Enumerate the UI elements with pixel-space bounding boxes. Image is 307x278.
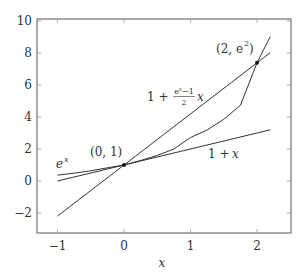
svg-text:e: e bbox=[56, 157, 63, 171]
x-tick-label: 2 bbox=[253, 239, 261, 253]
point-2-e2 bbox=[255, 61, 259, 65]
y-tick-label: 4 bbox=[24, 110, 32, 124]
label-1-plus-x: 1 + x bbox=[208, 147, 239, 161]
y-tick-label: 6 bbox=[24, 78, 32, 92]
x-tick-labels: −1 0 1 2 bbox=[49, 239, 261, 253]
y-tick-label: −2 bbox=[14, 206, 32, 220]
x-tick-label: −1 bbox=[49, 239, 67, 253]
y-tick-label: 8 bbox=[24, 46, 32, 60]
label-point-2-e2: (2, e 2 ) bbox=[216, 39, 254, 56]
label-exp: e x bbox=[56, 155, 69, 171]
svg-text:1 +: 1 + bbox=[208, 147, 230, 161]
chart: −1 0 1 2 10 8 6 4 2 0 −2 x e x (0, 1) (2… bbox=[0, 0, 307, 278]
label-secant: 1 + e²−1 2 x bbox=[147, 87, 204, 107]
svg-text:x: x bbox=[197, 90, 204, 104]
svg-text:): ) bbox=[249, 42, 254, 56]
label-point-0-1: (0, 1) bbox=[90, 145, 122, 159]
x-tick-label: 0 bbox=[120, 239, 128, 253]
y-tick-labels: 10 8 6 4 2 0 −2 bbox=[14, 14, 32, 220]
svg-text:1 +: 1 + bbox=[147, 90, 169, 104]
x-tick-label: 1 bbox=[187, 239, 195, 253]
y-tick-label: 0 bbox=[24, 174, 32, 188]
point-0-1 bbox=[122, 163, 126, 167]
x-axis-label: x bbox=[159, 256, 166, 270]
secant-line bbox=[58, 53, 271, 217]
svg-text:2: 2 bbox=[181, 98, 186, 107]
svg-text:x: x bbox=[64, 155, 69, 164]
svg-text:x: x bbox=[232, 147, 239, 161]
y-tick-label: 10 bbox=[17, 14, 32, 28]
svg-text:(2, e: (2, e bbox=[216, 42, 243, 56]
y-tick-label: 2 bbox=[24, 142, 32, 156]
svg-text:e²−1: e²−1 bbox=[174, 87, 194, 96]
